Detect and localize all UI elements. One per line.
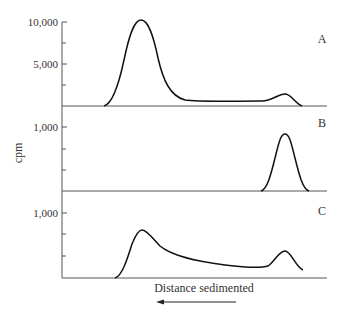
panel-label-a: A — [318, 32, 327, 46]
tick-label-c-1000: 1,000 — [33, 207, 58, 219]
sedimentation-chart: 10,000 5,000 A 1,000 B 1,000 C cpm Dista… — [0, 0, 346, 322]
panel-c-curve — [115, 230, 303, 278]
tick-label-b-1000: 1,000 — [33, 121, 58, 133]
direction-arrow-icon — [156, 300, 236, 305]
panel-label-c: C — [318, 204, 326, 218]
panel-a-curve — [104, 20, 302, 106]
panel-a-ticks — [62, 22, 67, 85]
tick-label-10000: 10,000 — [28, 16, 59, 28]
panel-b-curve — [261, 134, 309, 191]
panel-label-b: B — [318, 116, 326, 130]
x-axis-label: Distance sedimented — [154, 281, 254, 295]
tick-label-5000: 5,000 — [33, 58, 58, 70]
panel-c-ticks — [62, 213, 67, 256]
panel-b-ticks — [62, 127, 67, 170]
y-axis-label: cpm — [11, 142, 25, 163]
